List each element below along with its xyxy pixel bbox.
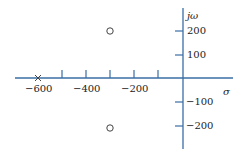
jw-axis-label: jω xyxy=(185,10,198,21)
jw-label-neg200: −200 xyxy=(186,120,213,131)
sigma-axis-label: σ xyxy=(223,86,231,97)
zero-marker-upper-icon xyxy=(107,28,113,34)
jw-label-200: 200 xyxy=(187,25,206,36)
sigma-ticks xyxy=(62,70,158,78)
sigma-label-neg400: −400 xyxy=(73,83,100,94)
sigma-label-neg600: −600 xyxy=(25,83,52,94)
sigma-label-neg200: −200 xyxy=(121,83,148,94)
jw-label-neg100: −100 xyxy=(186,96,213,107)
zero-marker-lower-icon xyxy=(107,125,113,131)
jw-label-100: 100 xyxy=(187,49,206,60)
pole-zero-plot: −600 −400 −200 σ jω 200 100 −100 −200 xyxy=(0,0,244,155)
